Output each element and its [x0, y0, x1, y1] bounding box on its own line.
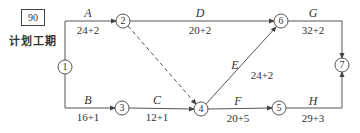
- activity-A-duration: 24+2: [77, 24, 100, 36]
- arrow-E: [206, 27, 276, 104]
- arrow-C: [129, 108, 194, 109]
- activity-B-duration: 16+1: [77, 111, 100, 123]
- activity-D-name: D: [196, 6, 205, 21]
- activity-D-duration: 20+2: [189, 24, 212, 36]
- activity-H-name: H: [309, 94, 318, 109]
- activity-C-name: C: [153, 93, 161, 108]
- plan-duration-caption: 计划工期: [9, 32, 57, 48]
- activity-G-name: G: [309, 6, 318, 21]
- plan-duration-box: 90: [21, 9, 45, 26]
- node-4-label: 4: [194, 102, 208, 116]
- node-3-label: 3: [115, 101, 129, 115]
- activity-B-name: B: [84, 93, 91, 108]
- activity-F-duration: 20+5: [227, 112, 250, 124]
- arrow-dummy: [128, 26, 196, 104]
- activity-C-duration: 12+1: [146, 111, 169, 123]
- node-2-label: 2: [116, 14, 130, 28]
- activity-E-duration: 24+2: [251, 69, 274, 81]
- activity-H-duration: 29+3: [302, 112, 325, 124]
- node-1-label: 1: [58, 60, 72, 74]
- activity-A-name: A: [84, 6, 91, 21]
- activity-F-name: F: [234, 94, 241, 109]
- node-7-label: 7: [335, 58, 349, 72]
- node-6-label: 6: [274, 14, 288, 28]
- activity-E-name: E: [231, 58, 238, 73]
- activity-G-duration: 32+2: [302, 24, 325, 36]
- node-5-label: 5: [272, 101, 286, 115]
